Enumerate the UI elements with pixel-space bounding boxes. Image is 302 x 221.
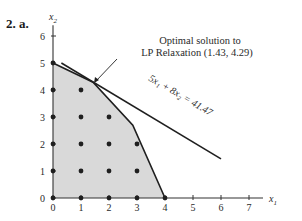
integer-point xyxy=(135,169,140,174)
integer-point xyxy=(79,88,84,93)
problem-heading: 2. a. xyxy=(6,16,29,31)
annotation-line-1: Optimal solution to xyxy=(159,35,241,46)
integer-point xyxy=(51,115,56,120)
y-tick-label: 5 xyxy=(40,58,45,69)
integer-point xyxy=(107,142,112,147)
integer-point xyxy=(135,142,140,147)
integer-point xyxy=(79,115,84,120)
objective-line-label: 5x₁ + 8x₂ = 41.47 xyxy=(147,72,216,118)
integer-point xyxy=(107,169,112,174)
x-tick-label: 6 xyxy=(219,202,224,213)
y-tick-label: 0 xyxy=(40,193,45,204)
y-tick-label: 3 xyxy=(40,112,45,123)
integer-point xyxy=(135,196,140,201)
integer-point xyxy=(51,169,56,174)
integer-point xyxy=(79,169,84,174)
x-tick-label: 1 xyxy=(79,202,84,213)
y-axis-label: x2 xyxy=(48,11,57,25)
integer-point xyxy=(107,115,112,120)
x-tick-label: 7 xyxy=(247,202,252,213)
x-tick-label: 4 xyxy=(163,202,168,213)
annotation-arrow-shaft xyxy=(96,59,117,81)
x-tick-label: 2 xyxy=(107,202,112,213)
y-tick-label: 4 xyxy=(40,85,45,96)
integer-point xyxy=(79,196,84,201)
annotation-line-2: LP Relaxation (1.43, 4.29) xyxy=(141,47,253,59)
feasible-region xyxy=(53,63,165,198)
integer-point xyxy=(51,61,56,66)
x-axis-label: x1 xyxy=(268,193,277,207)
integer-point xyxy=(51,88,56,93)
x-tick-label: 3 xyxy=(135,202,140,213)
integer-point xyxy=(107,196,112,201)
integer-point xyxy=(51,196,56,201)
annotation-arrowhead-icon xyxy=(94,77,99,83)
integer-point xyxy=(163,196,168,201)
y-tick-label: 6 xyxy=(40,31,45,42)
y-tick-label: 2 xyxy=(40,139,45,150)
integer-point xyxy=(79,142,84,147)
x-tick-label: 0 xyxy=(51,202,56,213)
optimal-solution-annotation: Optimal solution to LP Relaxation (1.43,… xyxy=(94,35,253,83)
feasible-region-fill xyxy=(53,63,165,198)
integer-point xyxy=(51,142,56,147)
lp-relaxation-diagram: 2. a. 012345670123456x1x2 Optimal soluti… xyxy=(0,0,302,221)
x-tick-label: 5 xyxy=(191,202,196,213)
y-tick-label: 1 xyxy=(40,166,45,177)
